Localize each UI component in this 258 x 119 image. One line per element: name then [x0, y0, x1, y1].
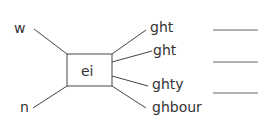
connector-n	[33, 86, 67, 108]
connector-w	[34, 29, 67, 54]
left-word-w: w	[14, 21, 25, 35]
left-word-n: n	[20, 100, 29, 114]
connector-ghty	[112, 76, 148, 86]
word-web-lines	[0, 0, 258, 119]
connector-ght-2	[112, 51, 152, 62]
right-word-3: ghty	[152, 77, 184, 91]
center-label: ei	[81, 64, 94, 78]
connector-ghbour	[112, 86, 146, 108]
right-word-2: ght	[153, 43, 176, 57]
right-word-1: ght	[150, 20, 173, 34]
connector-ght-1	[112, 30, 146, 54]
right-word-4: ghbour	[152, 100, 202, 114]
